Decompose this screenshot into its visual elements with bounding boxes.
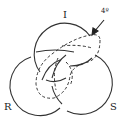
label-4th: 4º xyxy=(101,8,109,15)
circle-S xyxy=(67,55,112,114)
inner-arc-3 xyxy=(42,60,60,80)
diagram-canvas: I R S 4º xyxy=(0,0,122,122)
label-S: S xyxy=(110,102,117,112)
label-R: R xyxy=(4,102,12,112)
inner-arc-1 xyxy=(36,50,74,52)
borromean-diagram xyxy=(0,0,122,122)
dashed-loop-4 xyxy=(36,35,100,99)
label-I: I xyxy=(63,10,67,20)
dashed-inner-3 xyxy=(62,45,92,48)
inner-arc-4 xyxy=(46,78,66,82)
inner-arc-5 xyxy=(52,86,62,104)
